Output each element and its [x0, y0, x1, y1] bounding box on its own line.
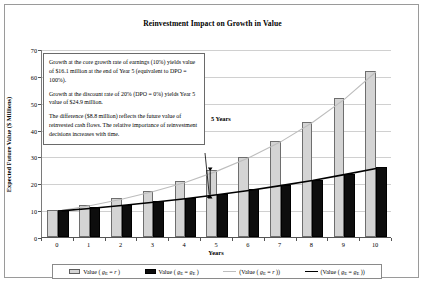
callout-paragraph-3: The difference ($8.8 million) reflects t…: [49, 112, 199, 139]
legend-swatch-gray-line-icon: [223, 271, 236, 272]
legend-item-label: (Value ( gE = r )): [239, 269, 280, 275]
callout-textbox: Growth at the core growth rate of earnin…: [43, 53, 205, 145]
legend-item[interactable]: (Value ( gE = gE )): [305, 269, 365, 275]
legend-swatch-gray-bar-icon: [69, 269, 80, 274]
legend-swatch-black-line-icon: [305, 271, 318, 272]
five-years-annotation-label: 5 Years: [211, 115, 231, 122]
legend-item[interactable]: Value ( gE = r ): [69, 269, 120, 275]
legend-item[interactable]: (Value ( gE = r )): [223, 269, 280, 275]
legend-item-label: Value ( gE = gE ): [159, 269, 199, 275]
legend-item-label: (Value ( gE = gE )): [321, 269, 365, 275]
callout-paragraph-1: Growth at the core growth rate of earnin…: [49, 58, 199, 85]
callout-leader-line: [205, 153, 209, 194]
five-years-arrow-head-top: [208, 167, 213, 171]
legend-swatch-black-bar-icon: [145, 269, 156, 274]
legend-item-label: Value ( gE = r ): [83, 269, 120, 275]
chart-legend: Value ( gE = r )Value ( gE = gE )(Value …: [52, 264, 382, 279]
legend-item[interactable]: Value ( gE = gE ): [145, 269, 199, 275]
figure-frame: Reinvestment Impact on Growth in Value E…: [4, 4, 419, 278]
callout-paragraph-2: Growth at the discount rate of 20% (DPO …: [49, 90, 199, 108]
